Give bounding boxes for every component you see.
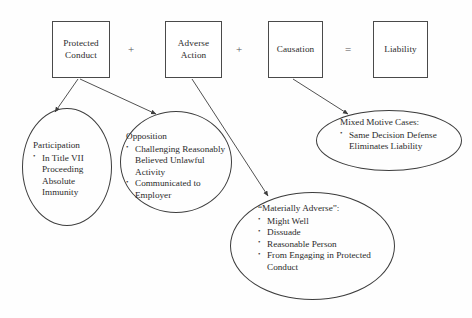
box-causation-line-1: Causation — [277, 44, 315, 55]
list-item: Might Well — [258, 216, 390, 228]
list-item: Challenging Reasonably Believed Unlawful… — [126, 144, 230, 179]
ellipse-mixed-motive-content: Mixed Motive Cases: Same Decision Defens… — [340, 117, 458, 153]
box-protected-conduct[interactable]: Protected Conduct — [52, 21, 110, 78]
box-adverse-action-line-2: Action — [181, 50, 207, 61]
box-liability[interactable]: Liability — [373, 21, 428, 78]
ellipse-materially-adverse-bullets: Might Well Dissuade Reasonable Person Fr… — [258, 216, 390, 274]
box-adverse-action-line-1: Adverse — [178, 38, 209, 49]
list-item: Same Decision Defense Eliminates Liabili… — [340, 130, 458, 153]
list-item: In Title VII Proceeding Absolute Immunit… — [33, 153, 107, 199]
box-protected-conduct-line-2: Conduct — [65, 50, 97, 61]
diagram-canvas: Protected Conduct + Adverse Action + Cau… — [0, 0, 472, 318]
operator-equals: = — [339, 44, 357, 55]
ellipse-materially-adverse-content: “Materially Adverse”: Might Well Dissuad… — [258, 203, 390, 273]
ellipse-materially-adverse-heading: “Materially Adverse”: — [258, 203, 390, 215]
ellipse-mixed-motive-heading: Mixed Motive Cases: — [340, 117, 458, 129]
list-item: Dissuade — [258, 227, 390, 239]
operator-plus-2: + — [230, 44, 248, 55]
ellipse-participation-content: Participation In Title VII Proceeding Ab… — [33, 140, 107, 199]
ellipse-participation-bullets: In Title VII Proceeding Absolute Immunit… — [33, 153, 107, 199]
box-liability-line-1: Liability — [384, 44, 417, 55]
ellipse-participation-heading: Participation — [33, 140, 107, 152]
list-item: Communicated to Employer — [126, 178, 230, 201]
list-item: From Engaging in Protected Conduct — [258, 250, 390, 273]
ellipse-opposition-content: Opposition Challenging Reasonably Believ… — [126, 131, 230, 201]
arrow-protected-conduct-to-opposition — [80, 79, 156, 114]
ellipse-opposition-heading: Opposition — [126, 131, 230, 143]
box-causation[interactable]: Causation — [268, 21, 323, 78]
arrow-causation-to-mixed-motive — [293, 79, 348, 114]
ellipse-mixed-motive-bullets: Same Decision Defense Eliminates Liabili… — [340, 130, 458, 153]
list-item: Reasonable Person — [258, 239, 390, 251]
box-adverse-action[interactable]: Adverse Action — [165, 21, 222, 78]
operator-plus-1: + — [122, 44, 140, 55]
box-protected-conduct-line-1: Protected — [63, 38, 99, 49]
ellipse-opposition-bullets: Challenging Reasonably Believed Unlawful… — [126, 144, 230, 202]
